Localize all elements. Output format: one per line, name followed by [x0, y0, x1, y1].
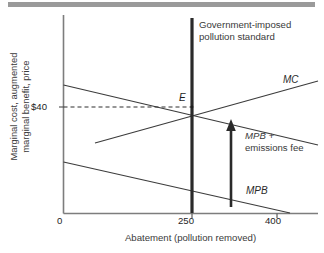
- equilibrium-point-marker: [191, 106, 194, 109]
- x-axis-label: Abatement (pollution removed): [63, 232, 318, 243]
- x-tick-label-400: 400: [265, 215, 281, 226]
- y-axis-label-line1: Marginal cost, augmented: [8, 53, 19, 161]
- curve-label-mc: MC: [283, 74, 299, 85]
- x-tick-label-0: 0: [57, 215, 62, 226]
- curve-label-mpb-plus-fee-line1: MPB +: [245, 130, 274, 141]
- x-tick-label-250: 250: [178, 215, 194, 226]
- annotation-pollution-standard: Government-imposedpollution standard: [199, 19, 291, 44]
- y-tick-label-40: $40: [31, 101, 47, 112]
- annotation-pollution-standard-line1: Government-imposed: [199, 19, 291, 30]
- curve-label-mpb: MPB: [246, 185, 268, 196]
- curve-label-mpb-plus-fee-line2: emissions fee: [245, 142, 304, 153]
- equilibrium-label-e: E: [179, 92, 186, 103]
- annotation-pollution-standard-line2: pollution standard: [199, 31, 275, 42]
- curve-label-mpb-plus-fee: MPB +emissions fee: [245, 130, 304, 155]
- y-axis-label: Marginal cost, augmentedmarginal benefit…: [8, 27, 31, 187]
- economics-figure: Marginal cost, augmentedmarginal benefit…: [0, 0, 324, 253]
- y-axis-label-line2: marginal benefit, price: [20, 60, 31, 152]
